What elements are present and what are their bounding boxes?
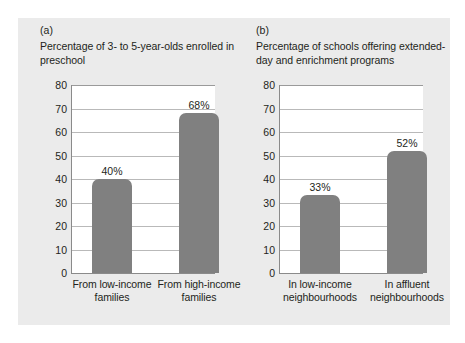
bar-value-label: 40% <box>101 165 122 177</box>
chart-panel-b: (b) Percentage of schools offering exten… <box>234 18 450 325</box>
bar-value-label: 68% <box>188 99 209 111</box>
plot-area-a: 8070605040302010040%From low-income fami… <box>71 85 215 274</box>
y-axis-tick-label: 20 <box>55 220 67 232</box>
y-axis-tick-label: 30 <box>263 197 275 209</box>
bar: 52%In affluent neighbourhoods <box>387 151 427 273</box>
bar-value-label: 52% <box>396 137 417 149</box>
panel-label-a: (a) <box>40 24 53 36</box>
gridline <box>280 132 423 133</box>
y-axis-tick-label: 60 <box>263 126 275 138</box>
y-axis-tick-label: 40 <box>55 173 67 185</box>
gridline <box>72 85 215 86</box>
bar: 40%From low-income families <box>92 179 132 273</box>
chart-panel-a: (a) Percentage of 3- to 5-year-olds enro… <box>18 18 234 325</box>
bar: 33%In low-income neighbourhoods <box>300 195 340 273</box>
figure-panel: (a) Percentage of 3- to 5-year-olds enro… <box>18 18 450 325</box>
gridline <box>280 85 423 86</box>
x-axis-category-label: In affluent neighbourhoods <box>355 278 459 303</box>
y-axis-tick-label: 80 <box>263 79 275 91</box>
y-axis-tick-label: 10 <box>55 244 67 256</box>
plot-area-b: 8070605040302010033%In low-income neighb… <box>279 85 423 274</box>
y-axis-tick-label: 80 <box>55 79 67 91</box>
gridline <box>280 109 423 110</box>
y-axis-tick-label: 10 <box>263 244 275 256</box>
y-axis-tick-label: 60 <box>55 126 67 138</box>
y-axis-tick-label: 50 <box>263 150 275 162</box>
chart-title-b: Percentage of schools offering extended-… <box>256 40 451 67</box>
chart-title-a: Percentage of 3- to 5-year-olds enrolled… <box>40 40 235 67</box>
panel-label-b: (b) <box>256 24 269 36</box>
bar-value-label: 33% <box>309 181 330 193</box>
y-axis-tick-label: 50 <box>55 150 67 162</box>
y-axis-tick-label: 40 <box>263 173 275 185</box>
y-axis-tick-label: 70 <box>263 103 275 115</box>
bar: 68%From high-income families <box>179 113 219 273</box>
y-axis-tick-label: 20 <box>263 220 275 232</box>
y-axis-tick-label: 30 <box>55 197 67 209</box>
y-axis-tick-label: 70 <box>55 103 67 115</box>
